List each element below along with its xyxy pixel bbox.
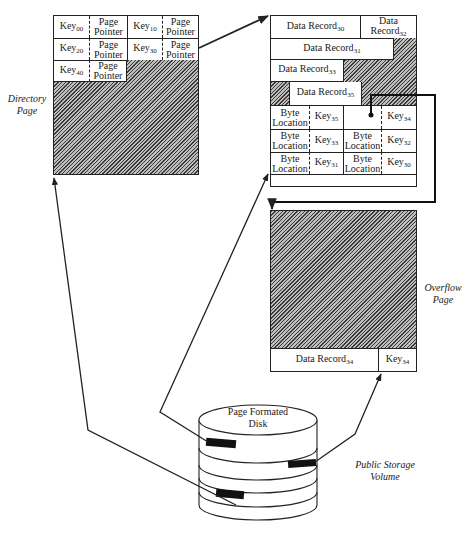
public-storage-volume-label: Public StorageVolume	[345, 459, 425, 483]
arrow-key34-to-overflow	[272, 95, 435, 209]
arrow-disk-to-data-page	[160, 174, 268, 442]
connectors-and-disk	[0, 0, 469, 535]
disk-title: Page FormatedDisk	[213, 406, 303, 430]
arrow-directory-to-data-page	[199, 16, 268, 48]
arrow-disk-to-overflow	[315, 374, 381, 462]
